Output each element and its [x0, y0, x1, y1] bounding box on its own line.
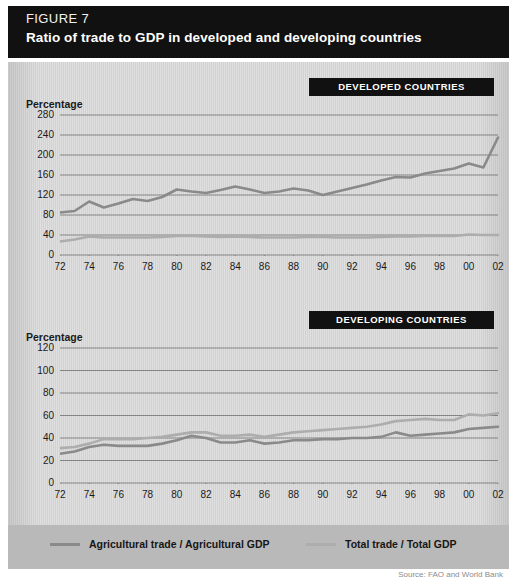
x-axis-tick-label: 82 — [197, 261, 215, 272]
x-axis-tick-label: 72 — [51, 261, 69, 272]
x-axis-tick-label: 94 — [372, 489, 390, 500]
x-axis-tick-label: 90 — [314, 489, 332, 500]
figure-header-banner: FIGURE 7 Ratio of trade to GDP in develo… — [8, 6, 509, 58]
y-axis-tick-label: 40 — [28, 432, 54, 443]
x-axis-tick-label: 88 — [285, 261, 303, 272]
y-axis-tick-label: 20 — [28, 455, 54, 466]
y-axis-tick-label: 80 — [28, 387, 54, 398]
x-axis-tick-label: 78 — [139, 489, 157, 500]
x-axis-tick-label: 84 — [226, 261, 244, 272]
y-axis-tick-label: 100 — [28, 365, 54, 376]
y-axis-tick-label: 0 — [28, 249, 54, 260]
legend-label-total: Total trade / Total GDP — [345, 538, 457, 550]
chart-title-badge-developing: DEVELOPING COUNTRIES — [309, 311, 494, 329]
figure-page: FIGURE 7 Ratio of trade to GDP in develo… — [0, 0, 517, 583]
plot-area-developed — [60, 114, 500, 256]
y-axis-tick-label: 200 — [28, 149, 54, 160]
chart-legend: Agricultural trade / Agricultural GDP To… — [8, 525, 509, 569]
x-axis-tick-label: 80 — [168, 261, 186, 272]
y-axis-tick-label: 40 — [28, 229, 54, 240]
y-axis-tick-label: 60 — [28, 410, 54, 421]
y-axis-tick-label: 0 — [28, 477, 54, 488]
chart-panel-developed: DEVELOPED COUNTRIES Percentage 040801201… — [8, 62, 509, 297]
x-axis-tick-label: 78 — [139, 261, 157, 272]
x-axis-tick-label: 96 — [401, 261, 419, 272]
x-axis-tick-label: 80 — [168, 489, 186, 500]
x-axis-tick-label: 90 — [314, 261, 332, 272]
x-axis-tick-label: 86 — [255, 261, 273, 272]
legend-swatch-total — [306, 543, 336, 546]
x-axis-tick-label: 82 — [197, 489, 215, 500]
legend-swatch-agricultural — [50, 543, 80, 546]
y-axis-tick-label: 240 — [28, 129, 54, 140]
x-axis-tick-label: 74 — [80, 261, 98, 272]
source-note: Source: FAO and World Bank — [8, 570, 509, 579]
chart-title-badge-developed: DEVELOPED COUNTRIES — [309, 78, 494, 96]
figure-title: Ratio of trade to GDP in developed and d… — [26, 30, 422, 45]
y-axis-tick-label: 120 — [28, 189, 54, 200]
y-axis-tick-label: 160 — [28, 169, 54, 180]
legend-item-agricultural: Agricultural trade / Agricultural GDP — [50, 538, 269, 550]
x-axis-tick-label: 98 — [431, 489, 449, 500]
x-axis-tick-label: 86 — [255, 489, 273, 500]
chart-panel-developing: DEVELOPING COUNTRIES Percentage 02040608… — [8, 297, 509, 525]
legend-label-agricultural: Agricultural trade / Agricultural GDP — [89, 538, 269, 550]
legend-item-total: Total trade / Total GDP — [306, 538, 457, 550]
x-axis-tick-label: 94 — [372, 261, 390, 272]
x-axis-tick-label: 84 — [226, 489, 244, 500]
x-axis-tick-label: 98 — [431, 261, 449, 272]
x-axis-tick-label: 00 — [460, 489, 478, 500]
y-axis-tick-label: 80 — [28, 209, 54, 220]
x-axis-tick-label: 72 — [51, 489, 69, 500]
y-axis-tick-label: 280 — [28, 109, 54, 120]
plot-area-developing — [60, 347, 500, 484]
x-axis-tick-label: 00 — [460, 261, 478, 272]
x-axis-tick-label: 02 — [489, 261, 507, 272]
x-axis-tick-label: 92 — [343, 489, 361, 500]
x-axis-tick-label: 92 — [343, 261, 361, 272]
x-axis-tick-label: 02 — [489, 489, 507, 500]
figure-number: FIGURE 7 — [26, 11, 89, 26]
x-axis-tick-label: 96 — [401, 489, 419, 500]
x-axis-tick-label: 88 — [285, 489, 303, 500]
y-axis-tick-label: 120 — [28, 342, 54, 353]
x-axis-tick-label: 74 — [80, 489, 98, 500]
x-axis-tick-label: 76 — [109, 261, 127, 272]
x-axis-tick-label: 76 — [109, 489, 127, 500]
